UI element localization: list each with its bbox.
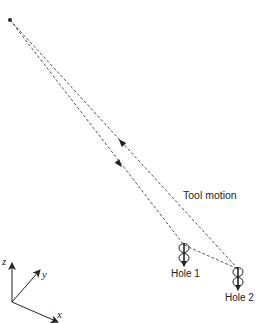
path-hole-1-to-hole-2 [184,245,238,269]
direction-arrow-down-icon [115,159,125,169]
hole-1-label: Hole 1 [171,269,200,279]
tool-motion-diagram [0,0,269,323]
z-axis-label: z [2,256,6,267]
y-axis-label: y [42,269,47,280]
coordinate-axes-icon [12,263,58,322]
x-axis-label: x [57,309,62,320]
hole-2-symbol [233,267,243,290]
hole-2-label: Hole 2 [225,293,254,303]
y-axis [12,270,40,302]
x-axis [12,302,58,322]
tool-motion-label: Tool motion [183,190,237,201]
hole-1-symbol [179,243,189,266]
path-to-hole-1 [10,20,184,245]
